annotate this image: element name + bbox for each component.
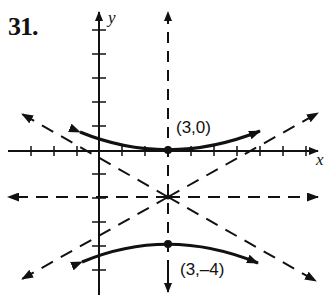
upper-vertex-label: (3,0) (176, 118, 211, 138)
asymptote-lower-left (22, 197, 168, 279)
x-axis-label: x (316, 150, 324, 170)
upper-vertex-point (164, 146, 172, 154)
lower-vertex-label: (3,–4) (180, 260, 224, 280)
center-point (166, 195, 171, 200)
y-axis-label: y (108, 8, 116, 28)
lower-vertex-point (164, 240, 172, 248)
